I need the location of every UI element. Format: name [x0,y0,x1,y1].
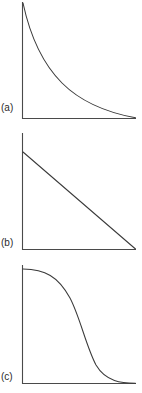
panel-b-plot [0,131,142,262]
linear-decline-line [23,152,136,249]
panel-c-plot [0,262,142,393]
panel-label-c: (c) [1,372,13,382]
panel-a-axes [23,2,137,119]
panel-label-a: (a) [1,103,13,113]
panel-a-plot [0,0,142,131]
chart-panel-c: (c) [0,262,142,393]
panel-b-axes [23,133,137,250]
chart-panel-b: (b) [0,131,142,262]
panel-label-b: (b) [1,238,13,248]
exponential-decay-curve [23,3,136,118]
three-panel-decay-figure: (a) (b) (c) [0,0,142,393]
reverse-sigmoid-curve [23,269,136,383]
panel-c-axes [23,265,137,384]
chart-panel-a: (a) [0,0,142,131]
